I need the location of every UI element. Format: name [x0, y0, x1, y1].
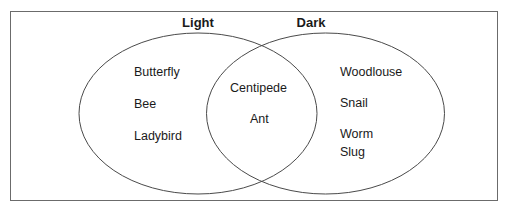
light-item-ladybird: Ladybird [134, 129, 182, 143]
both-item-ant: Ant [250, 112, 269, 126]
both-item-centipede: Centipede [230, 81, 287, 95]
dark-item-woodlouse: Woodlouse [340, 65, 402, 79]
light-set-ellipse [79, 33, 317, 194]
venn-diagram [0, 0, 508, 221]
light-item-bee: Bee [134, 97, 156, 111]
light-item-butterfly: Butterfly [134, 65, 180, 79]
dark-item-slug: Slug [340, 145, 365, 159]
dark-item-snail: Snail [340, 96, 368, 110]
dark-set-title: Dark [297, 15, 326, 30]
light-set-title: Light [182, 15, 214, 30]
dark-item-worm: Worm [340, 127, 373, 141]
dark-set-ellipse [207, 33, 445, 194]
